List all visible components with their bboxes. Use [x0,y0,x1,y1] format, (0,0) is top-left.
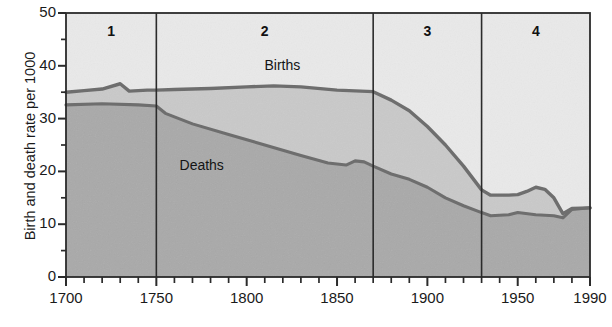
series-annotation-deaths: Deaths [180,157,224,173]
y-tick-label-40: 40 [10,56,56,73]
y-tick-label-30: 30 [10,109,56,126]
x-tick-label-1990: 1990 [558,289,612,306]
x-tick-label-1700: 1700 [34,289,98,306]
stage-label-4: 4 [516,23,556,39]
stage-label-2: 2 [245,23,285,39]
series-annotation-births: Births [264,57,300,73]
x-tick-label-1900: 1900 [395,289,459,306]
stage-label-3: 3 [407,23,447,39]
x-tick-label-1800: 1800 [215,289,279,306]
y-axis-title: Birth and death rate per 1000 [22,11,38,281]
y-tick-label-20: 20 [10,161,56,178]
y-tick-label-50: 50 [10,3,56,20]
x-tick-label-1750: 1750 [124,289,188,306]
x-tick-label-1950: 1950 [486,289,550,306]
chart-plot-area [0,0,612,327]
y-tick-label-0: 0 [10,267,56,284]
stage-label-1: 1 [91,23,131,39]
x-tick-label-1850: 1850 [305,289,369,306]
demographic-transition-chart: Birth and death rate per 1000 0102030405… [0,0,612,327]
y-tick-label-10: 10 [10,214,56,231]
